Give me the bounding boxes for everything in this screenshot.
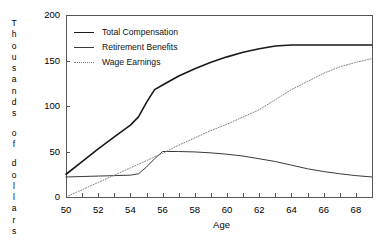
- x-tick-label: 56: [151, 205, 175, 215]
- legend-swatch-icon: [74, 62, 94, 63]
- x-tick-label: 68: [344, 205, 368, 215]
- x-tick-label: 62: [247, 205, 271, 215]
- x-tick-label: 52: [86, 205, 110, 215]
- line-chart: Thousandsofdollars 050100150200 50525456…: [0, 0, 391, 249]
- legend-swatch-icon: [74, 47, 94, 48]
- x-tick-label: 60: [215, 205, 239, 215]
- legend-label: Total Compensation: [102, 25, 178, 40]
- legend-item[interactable]: Retirement Benefits: [74, 40, 254, 55]
- legend-label: Retirement Benefits: [102, 40, 177, 55]
- legend-item[interactable]: Wage Earnings: [74, 55, 254, 70]
- legend-swatch-icon: [74, 32, 94, 33]
- x-tick-label: 66: [312, 205, 336, 215]
- x-tick-label: 54: [118, 205, 142, 215]
- x-tick-label: 58: [183, 205, 207, 215]
- legend-label: Wage Earnings: [102, 55, 160, 70]
- legend: Total CompensationRetirement BenefitsWag…: [74, 25, 254, 70]
- legend-item[interactable]: Total Compensation: [74, 25, 254, 40]
- x-tick-label: 64: [279, 205, 303, 215]
- x-tick-label: 50: [54, 205, 78, 215]
- x-axis-title: Age: [0, 219, 391, 230]
